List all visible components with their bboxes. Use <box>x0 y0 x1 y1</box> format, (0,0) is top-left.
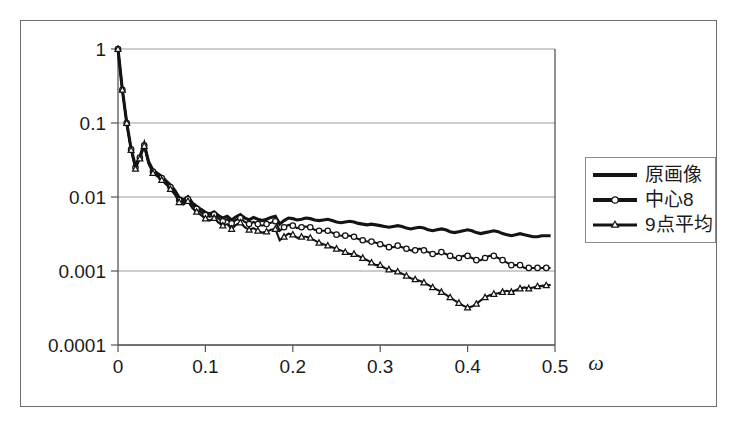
x-axis-tick-labels: 00.10.20.30.40.5 <box>113 356 569 377</box>
y-tick-label: 0.1 <box>80 113 106 134</box>
y-tick-label: 0.01 <box>69 187 106 208</box>
series-0 <box>118 49 551 237</box>
x-tick-label: 0 <box>113 356 124 377</box>
y-tick-label: 0.001 <box>58 261 106 282</box>
figure-root: 10.10.010.0010.0001 00.10.20.30.40.5 ω 原… <box>0 0 739 428</box>
y-tick-label: 0.0001 <box>48 335 106 356</box>
legend-label-center8: 中心8 <box>645 190 694 210</box>
legend-swatch-circle-marker <box>592 191 638 209</box>
x-tick-label: 0.3 <box>367 356 393 377</box>
chart-legend: 原画像 中心8 9点平均 <box>585 157 716 243</box>
legend-label-nine-point-average: 9点平均 <box>645 215 713 235</box>
legend-swatch-triangle-marker <box>592 216 638 234</box>
series-1 <box>115 46 550 270</box>
x-tick-label: 0.5 <box>542 356 568 377</box>
x-tick-label: 0.4 <box>454 356 481 377</box>
data-series-group <box>115 46 551 310</box>
x-tick-label: 0.1 <box>192 356 218 377</box>
legend-item-original[interactable]: 原画像 <box>592 162 709 187</box>
legend-swatch-line-thick <box>592 166 638 184</box>
y-tick-label: 1 <box>95 39 106 60</box>
x-axis-symbol: ω <box>588 350 604 375</box>
legend-label-original: 原画像 <box>645 165 702 185</box>
y-axis-tick-labels: 10.10.010.0010.0001 <box>48 39 106 356</box>
series-2 <box>115 46 551 310</box>
x-tick-label: 0.2 <box>280 356 306 377</box>
legend-item-nine-point-average[interactable]: 9点平均 <box>592 213 709 238</box>
legend-item-center8[interactable]: 中心8 <box>592 187 709 212</box>
grid-lines <box>118 49 555 345</box>
